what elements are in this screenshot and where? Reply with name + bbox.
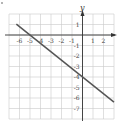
x-tick-label: -3: [48, 37, 54, 44]
coordinate-plane-chart: -6-5-4-3-2-1121-1-2-3-4-5-6-7 y: [0, 0, 118, 122]
series-line: [16, 24, 114, 102]
x-tick-label: -5: [27, 37, 33, 44]
series-group: [16, 24, 114, 102]
y-tick-label: -6: [74, 94, 80, 101]
y-tick-label: -3: [74, 63, 80, 70]
x-tick-label: 1: [91, 37, 95, 44]
grid-lines: [9, 14, 114, 119]
axes: [5, 10, 117, 121]
y-tick-label: -7: [74, 105, 80, 112]
problem-bullet: [1, 2, 3, 4]
x-tick-label: -2: [59, 37, 65, 44]
x-tick-label: 2: [102, 37, 106, 44]
y-tick-label: -5: [74, 84, 80, 91]
y-tick-label: 1: [76, 21, 80, 28]
x-tick-label: -6: [17, 37, 23, 44]
y-axis-label: y: [79, 3, 85, 12]
y-tick-label: -2: [74, 52, 80, 59]
y-tick-label: -1: [74, 42, 80, 49]
